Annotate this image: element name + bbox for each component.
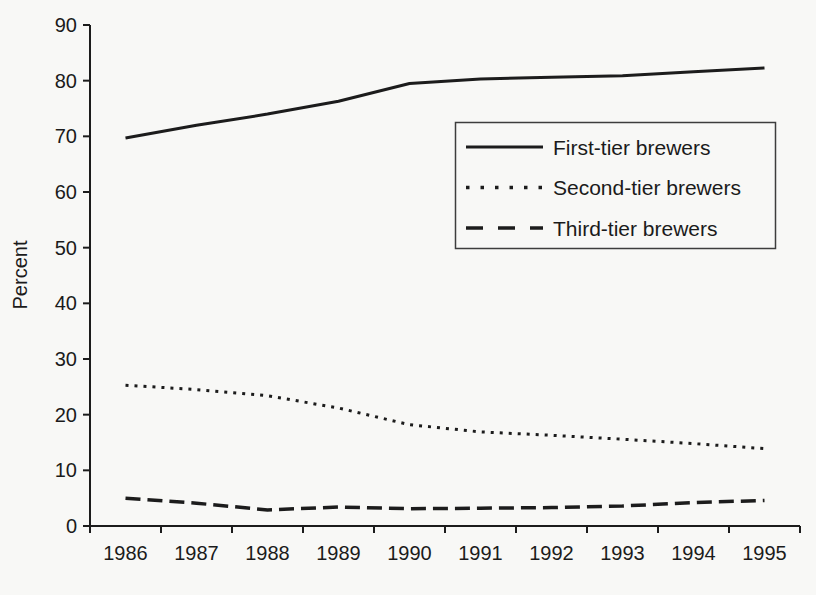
y-tick-label: 70 xyxy=(55,125,77,147)
x-tick-label: 1994 xyxy=(671,542,716,564)
x-tick-label: 1989 xyxy=(316,542,361,564)
x-tick-label: 1987 xyxy=(174,542,219,564)
y-tick-label: 20 xyxy=(55,404,77,426)
y-tick-label: 80 xyxy=(55,70,77,92)
y-tick-label: 60 xyxy=(55,181,77,203)
y-tick-label: 50 xyxy=(55,237,77,259)
legend-label-third-tier-brewers: Third-tier brewers xyxy=(553,217,718,240)
y-tick-label: 0 xyxy=(66,515,77,537)
x-tick-label: 1993 xyxy=(600,542,645,564)
legend: First-tier brewersSecond-tier brewersThi… xyxy=(456,123,776,249)
legend-label-second-tier-brewers: Second-tier brewers xyxy=(553,176,741,199)
chart-background xyxy=(0,0,816,595)
x-tick-label: 1991 xyxy=(458,542,503,564)
y-tick-label: 40 xyxy=(55,292,77,314)
x-tick-label: 1990 xyxy=(387,542,432,564)
y-axis-title: Percent xyxy=(9,240,31,309)
x-tick-label: 1988 xyxy=(245,542,290,564)
y-tick-label: 30 xyxy=(55,348,77,370)
x-tick-label: 1995 xyxy=(742,542,787,564)
x-tick-label: 1986 xyxy=(103,542,148,564)
y-tick-label: 90 xyxy=(55,14,77,36)
y-tick-label: 10 xyxy=(55,459,77,481)
brewers-market-share-figure: 0102030405060708090198619871988198919901… xyxy=(0,0,816,595)
x-tick-label: 1992 xyxy=(529,542,574,564)
legend-label-first-tier-brewers: First-tier brewers xyxy=(553,136,711,159)
line-chart-canvas: 0102030405060708090198619871988198919901… xyxy=(0,0,816,595)
